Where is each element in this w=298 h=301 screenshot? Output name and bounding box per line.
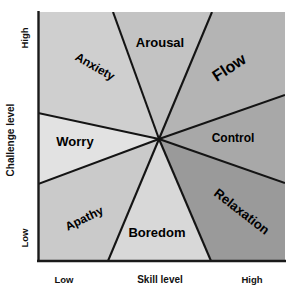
- y-axis-title: Challenge level: [5, 103, 16, 176]
- x-axis-high-label: High: [241, 274, 262, 285]
- sector-label-arousal: Arousal: [136, 35, 184, 50]
- x-axis-low-label: Low: [55, 274, 75, 285]
- x-axis-title: Skill level: [137, 274, 183, 285]
- sector-label-worry: Worry: [56, 134, 94, 149]
- flow-model-diagram: Arousal Flow Control Relaxation Boredom …: [0, 0, 298, 301]
- y-axis-low-label: Low: [19, 228, 30, 248]
- sector-label-control: Control: [212, 131, 255, 145]
- sector-label-boredom: Boredom: [128, 225, 185, 240]
- flow-model-canvas: Arousal Flow Control Relaxation Boredom …: [0, 0, 298, 301]
- y-axis-high-label: High: [19, 27, 30, 48]
